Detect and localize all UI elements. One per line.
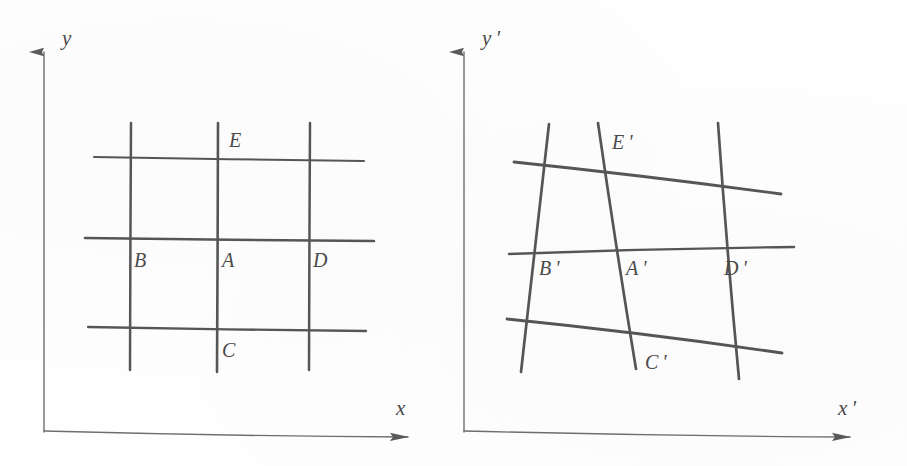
x-axis-left — [44, 431, 408, 437]
node-label-E: E — [229, 130, 241, 150]
diagram-svg — [0, 0, 907, 466]
grid-line-middle — [85, 238, 374, 241]
node-label-B-prime: B ' — [539, 258, 560, 278]
grid-line-middle-prime — [509, 247, 794, 254]
panel-reference-configuration — [44, 52, 408, 437]
grid-line-B-prime — [521, 124, 549, 372]
grid-line-top — [94, 157, 364, 161]
grid-line-bottom-prime — [507, 319, 782, 353]
grid-left — [85, 123, 374, 372]
axes-left — [44, 52, 408, 437]
x-axis-label-right: x ' — [838, 398, 856, 419]
grid-line-D-prime — [718, 123, 739, 379]
node-label-D-prime: D ' — [724, 258, 747, 278]
panel-deformed-configuration — [464, 52, 850, 437]
node-label-A: A — [222, 250, 234, 270]
y-axis-label-left: y — [62, 28, 71, 49]
node-label-D: D — [313, 250, 327, 270]
grid-line-A — [217, 123, 218, 372]
axes-right — [464, 52, 850, 437]
node-label-A-prime: A ' — [626, 258, 647, 278]
figure-canvas: y x y ' x ' E B A D C E ' B ' A ' D ' C … — [0, 0, 907, 466]
y-axis-label-right: y ' — [482, 28, 500, 49]
x-axis-right — [464, 431, 850, 437]
node-label-C: C — [222, 340, 235, 360]
node-label-C-prime: C ' — [645, 352, 667, 372]
grid-line-top-prime — [514, 162, 781, 194]
node-label-E-prime: E ' — [612, 132, 633, 152]
grid-line-B — [130, 123, 131, 370]
grid-right — [507, 123, 794, 379]
x-axis-label-left: x — [396, 398, 405, 419]
node-label-B: B — [134, 250, 146, 270]
